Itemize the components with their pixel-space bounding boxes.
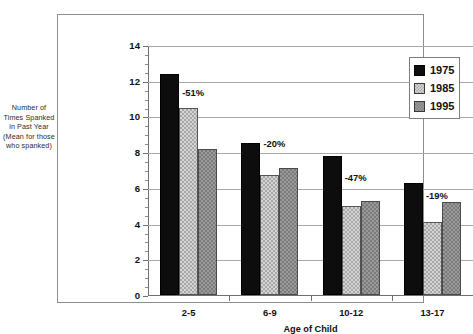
x-axis-tick xyxy=(229,296,230,301)
y-axis-minor-tick xyxy=(145,126,148,127)
legend-swatch-1995-icon xyxy=(414,101,425,112)
chart-legend: 197519851995 xyxy=(409,57,460,119)
bar-1995-6-9 xyxy=(279,168,298,295)
y-axis-minor-tick xyxy=(145,287,148,288)
y-axis-tick xyxy=(143,260,148,261)
legend-swatch-1985-icon xyxy=(414,83,425,94)
y-axis-tick-label: 4 xyxy=(118,220,140,230)
legend-item-1985: 1985 xyxy=(414,79,454,97)
x-axis-tick xyxy=(311,296,312,301)
y-axis-minor-tick xyxy=(145,73,148,74)
y-axis-tick xyxy=(143,296,148,297)
y-axis-minor-tick xyxy=(145,242,148,243)
y-axis-title: Number of Times Spanked in Past Year (Me… xyxy=(2,103,56,151)
bar-1975-10-12 xyxy=(323,156,342,295)
x-axis-tick-label: 10-12 xyxy=(316,307,386,318)
y-axis-tick xyxy=(143,153,148,154)
percent-change-label: -19% xyxy=(426,191,448,200)
y-axis-tick-label: 10 xyxy=(118,113,140,123)
y-axis-tick xyxy=(143,225,148,226)
y-axis-minor-tick xyxy=(145,55,148,56)
y-axis-tick-label: 8 xyxy=(118,148,140,158)
y-axis-minor-tick xyxy=(145,216,148,217)
y-axis-minor-tick xyxy=(145,135,148,136)
y-axis-minor-tick xyxy=(145,171,148,172)
bar-1985-10-12 xyxy=(342,206,361,295)
legend-label: 1975 xyxy=(430,65,454,76)
legend-label: 1985 xyxy=(430,83,454,94)
x-axis-tick-label: 6-9 xyxy=(235,307,305,318)
y-axis-minor-tick xyxy=(145,100,148,101)
bar-1985-6-9 xyxy=(260,175,279,295)
y-axis-minor-tick xyxy=(145,198,148,199)
y-axis-minor-tick xyxy=(145,109,148,110)
gridline xyxy=(148,46,473,47)
y-axis-tick xyxy=(143,117,148,118)
chart-frame: 02468101214 2-56-910-1213-17 -51%-20%-47… xyxy=(57,14,424,303)
legend-label: 1995 xyxy=(430,101,454,112)
percent-change-label: -47% xyxy=(345,173,367,182)
x-axis-title: Age of Child xyxy=(148,324,473,334)
legend-item-1975: 1975 xyxy=(414,61,454,79)
percent-change-label: -20% xyxy=(263,139,285,148)
legend-swatch-1975-icon xyxy=(414,65,425,76)
x-axis-tick-label: 13-17 xyxy=(397,307,467,318)
y-axis-minor-tick xyxy=(145,64,148,65)
bar-1995-10-12 xyxy=(361,201,380,295)
bar-1995-13-17 xyxy=(442,202,461,295)
y-axis-minor-tick xyxy=(145,91,148,92)
y-axis-minor-tick xyxy=(145,144,148,145)
y-axis-tick-label: 0 xyxy=(118,291,140,301)
percent-change-label: -51% xyxy=(182,88,204,97)
y-axis-minor-tick xyxy=(145,278,148,279)
y-axis-tick-label: 14 xyxy=(118,41,140,51)
bar-1995-2-5 xyxy=(198,149,217,295)
bar-1985-13-17 xyxy=(423,222,442,295)
bar-1975-13-17 xyxy=(404,183,423,295)
y-axis-tick xyxy=(143,82,148,83)
y-axis-tick xyxy=(143,46,148,47)
legend-item-1995: 1995 xyxy=(414,97,454,115)
x-axis-tick xyxy=(392,296,393,301)
bar-1985-2-5 xyxy=(179,108,198,296)
y-axis-tick-label: 12 xyxy=(118,77,140,87)
y-axis-tick xyxy=(143,189,148,190)
y-axis-minor-tick xyxy=(145,234,148,235)
y-axis-minor-tick xyxy=(145,180,148,181)
y-axis-minor-tick xyxy=(145,207,148,208)
y-axis-tick-label: 6 xyxy=(118,184,140,194)
bar-1975-2-5 xyxy=(160,74,179,295)
y-axis-line xyxy=(148,46,149,296)
x-axis-tick-label: 2-5 xyxy=(154,307,224,318)
y-axis-minor-tick xyxy=(145,162,148,163)
y-axis-minor-tick xyxy=(145,251,148,252)
y-axis-minor-tick xyxy=(145,269,148,270)
y-axis-tick-label: 2 xyxy=(118,255,140,265)
bar-1975-6-9 xyxy=(241,143,260,295)
